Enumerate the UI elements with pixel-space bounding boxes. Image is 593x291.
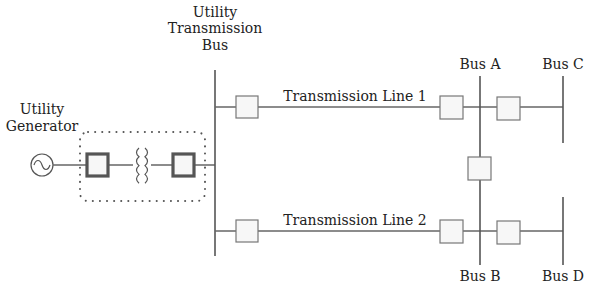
transformer-breaker-icon [173,154,194,176]
line1-receiving-breaker-icon [440,96,463,119]
bus-a-label: Bus A [459,56,501,72]
generator-label-line2: Generator [6,118,79,134]
bus-d-label: Bus D [542,268,584,284]
line2-receiving-breaker-icon [440,220,463,243]
generator-label-line1: Utility [20,101,64,117]
single-line-diagram: Utility Transmission Bus Utility Generat… [0,0,593,291]
bus-b-to-d-breaker-icon [497,221,520,244]
line2-sending-breaker-icon [236,220,258,242]
utility-bus-label-line3: Bus [202,37,229,53]
transmission-line-1-label: Transmission Line 1 [283,88,427,104]
bus-b-label: Bus B [459,268,500,284]
ac-source-icon [31,154,53,176]
transformer-icon [133,148,151,183]
generator-breaker-icon [87,154,108,176]
line1-sending-breaker-icon [236,96,258,118]
utility-bus-label-line2: Transmission [168,20,263,36]
utility-bus-label-line1: Utility [193,4,237,20]
bus-c-label: Bus C [542,56,584,72]
bus-a-to-c-breaker-icon [497,97,520,120]
transmission-line-2-label: Transmission Line 2 [283,212,427,228]
bus-tie-breaker-icon [468,157,491,180]
